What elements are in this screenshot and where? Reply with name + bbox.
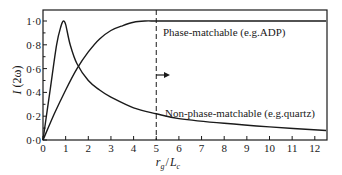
x-tick-label: 9 [244, 142, 250, 154]
x-tick-label: 4 [131, 142, 137, 154]
non-phase-matchable-label: Non-phase-matchable (e.g.quartz) [165, 107, 315, 120]
x-tick-label: 7 [199, 142, 205, 154]
y-tick-label: 0·2 [26, 110, 41, 122]
y-tick-label: 0·0 [26, 134, 41, 146]
arrow-right-icon [156, 72, 170, 78]
x-tick-label: 11 [287, 142, 298, 154]
x-tick-label: 1 [63, 142, 69, 154]
x-tick-label: 5 [154, 142, 160, 154]
non-phase-matchable-curve [43, 21, 326, 140]
x-tick-label: 8 [221, 142, 227, 154]
y-axis-title: I(2ω) [10, 66, 24, 96]
x-tick-label: 10 [264, 142, 276, 154]
axis-ticks [43, 21, 315, 140]
y-tick-label: 0·4 [26, 86, 41, 98]
x-tick-label: 0 [40, 142, 46, 154]
y-tick-labels: 0·00·20·40·60·81·0 [26, 15, 41, 146]
y-tick-label: 1·0 [26, 15, 41, 27]
x-tick-label: 2 [86, 142, 92, 154]
x-axis-title: rg/Lc [156, 155, 181, 171]
x-tick-label: 12 [309, 142, 320, 154]
phase-matchable-curve [43, 21, 326, 140]
y-tick-label: 0·8 [26, 39, 41, 51]
y-tick-label: 0·6 [26, 63, 41, 75]
chart: 0123456789101112 0·00·20·40·60·81·0 Phas… [0, 0, 342, 175]
x-tick-label: 6 [176, 142, 182, 154]
phase-matchable-label: Phase-matchable (e.g.ADP) [163, 26, 286, 39]
x-tick-labels: 0123456789101112 [40, 142, 320, 154]
x-tick-label: 3 [108, 142, 114, 154]
